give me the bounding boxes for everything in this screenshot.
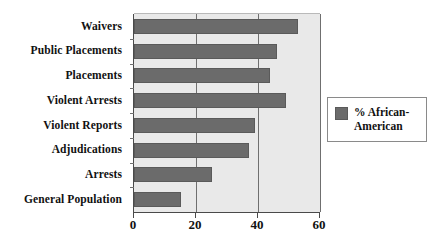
category-label: Adjudications [0, 138, 128, 163]
category-label: Violent Reports [0, 113, 128, 138]
bar-band [134, 113, 320, 138]
x-tick-label: 40 [251, 218, 264, 231]
bar-band [134, 88, 320, 113]
bar-band [134, 138, 320, 163]
bar [134, 19, 298, 34]
bar-band [134, 14, 320, 39]
bar [134, 118, 255, 133]
bar-band [134, 187, 320, 212]
x-axis-tick-labels: 0204060 [0, 218, 432, 242]
gridline [320, 14, 321, 212]
bar-band [134, 64, 320, 89]
category-label: Placements [0, 64, 128, 89]
category-label: General Population [0, 187, 128, 212]
bar [134, 93, 286, 108]
category-label: Waivers [0, 14, 128, 39]
bar-band [134, 39, 320, 64]
bar [134, 44, 277, 59]
category-label: Public Placements [0, 39, 128, 64]
bar-chart: WaiversPublic PlacementsPlacementsViolen… [0, 0, 432, 250]
category-axis-labels: WaiversPublic PlacementsPlacementsViolen… [0, 14, 128, 212]
chart-legend: % African-American [327, 97, 427, 142]
category-label: Arrests [0, 163, 128, 188]
x-tick-label: 0 [130, 218, 137, 231]
legend-swatch-icon [335, 107, 348, 120]
plot-area [133, 14, 320, 213]
x-tick-label: 60 [313, 218, 326, 231]
category-label: Violent Arrests [0, 88, 128, 113]
legend-label: % African-American [354, 105, 420, 134]
bar [134, 167, 212, 182]
bar [134, 68, 270, 83]
bar [134, 192, 181, 207]
bar-band [134, 163, 320, 188]
bar [134, 143, 249, 158]
bar-series [134, 14, 320, 212]
x-tick-label: 20 [189, 218, 202, 231]
